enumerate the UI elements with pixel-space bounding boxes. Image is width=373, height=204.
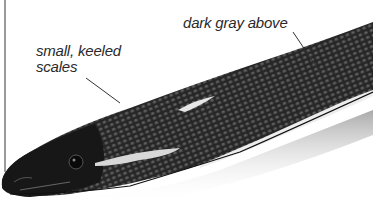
snake-illustration: small, keeled scales dark gray above	[0, 0, 373, 204]
eye	[69, 155, 83, 169]
label-dark-gray-above: dark gray above	[183, 15, 288, 31]
label-keeled-scales-line1: small, keeled	[36, 43, 146, 59]
snake-head	[2, 124, 104, 197]
label-keeled-scales-line2: scales	[36, 59, 146, 75]
leader-line-keeled-scales	[86, 78, 120, 103]
label-keeled-scales: small, keeled scales	[36, 43, 146, 75]
